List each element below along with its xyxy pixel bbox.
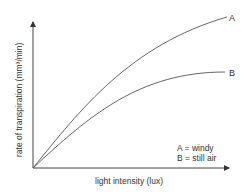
curve-b-label: B [229, 68, 235, 78]
legend-b: B = still air [177, 153, 217, 163]
curve-a-label: A [229, 13, 235, 23]
y-axis-label: rate of transpiration (mm³/min) [14, 43, 24, 157]
x-axis-label: light intensity (lux) [95, 176, 163, 186]
transpiration-chart: A B A = windy B = still air light intens… [0, 0, 242, 195]
legend-a: A = windy [177, 143, 214, 153]
